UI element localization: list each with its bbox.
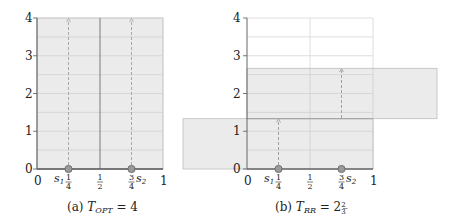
x-tick-1-b: 1 <box>370 174 378 188</box>
y-tick-4-a: 4 <box>25 11 33 25</box>
y-tick-3-a: 3 <box>25 49 33 63</box>
server-label-s1-b: s1 <box>264 172 274 186</box>
x-tick-half-den-a: 2 <box>98 182 103 191</box>
y-tick-0-a: 0 <box>25 162 33 176</box>
x-tick-3quarter-num-b: 3 <box>339 173 344 182</box>
y-tick-3-b: 3 <box>233 49 241 63</box>
x-tick-quarter-num-a: 1 <box>66 173 71 182</box>
x-tick-quarter-num-b: 1 <box>276 173 281 182</box>
server-label-s2-a: s2 <box>136 172 147 186</box>
x-tick-half-num-a: 1 <box>98 173 103 182</box>
x-tick-0-b: 0 <box>244 174 252 188</box>
x-tick-1-a: 1 <box>160 174 168 188</box>
server-label-s1-a: s1 <box>54 172 64 186</box>
y-tick-2-a: 2 <box>25 87 33 101</box>
server-marker-s1-a <box>65 165 72 172</box>
server-marker-s1-b <box>275 165 282 172</box>
server-marker-s2-a <box>128 165 135 172</box>
caption-b: (b) TRR = 223 <box>275 200 346 216</box>
x-tick-3quarter-den-b: 4 <box>339 182 344 191</box>
x-tick-0-a: 0 <box>34 174 42 188</box>
server-marker-s2-b <box>338 165 345 172</box>
panel-b: 4 3 2 1 0 0 1 4 1 2 3 4 1 s1 s2 (b) TRR … <box>183 11 437 216</box>
x-tick-quarter-den-a: 4 <box>66 182 71 191</box>
caption-a: (a) TOPT = 4 <box>67 200 138 215</box>
x-tick-half-num-b: 1 <box>308 173 313 182</box>
server-label-s2-b: s2 <box>346 172 357 186</box>
y-tick-0-b: 0 <box>233 162 241 176</box>
y-tick-1-a: 1 <box>25 124 33 138</box>
x-tick-quarter-den-b: 4 <box>276 182 281 191</box>
y-tick-4-b: 4 <box>233 11 241 25</box>
y-tick-1-b: 1 <box>233 124 241 138</box>
x-tick-3quarter-num-a: 3 <box>129 173 134 182</box>
figure-canvas: 4 3 2 1 0 0 1 4 1 2 3 4 1 s1 s2 (a) TOPT… <box>0 0 460 224</box>
panel-a: 4 3 2 1 0 0 1 4 1 2 3 4 1 s1 s2 (a) TOPT… <box>25 11 168 215</box>
x-tick-half-den-b: 2 <box>308 182 313 191</box>
y-tick-2-b: 2 <box>233 87 241 101</box>
x-tick-3quarter-den-a: 4 <box>129 182 134 191</box>
